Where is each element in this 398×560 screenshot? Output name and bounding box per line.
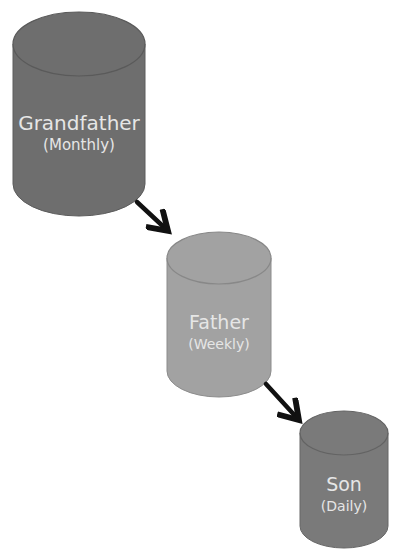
father-frequency: (Weekly) [167, 336, 271, 352]
son-title: Son [300, 474, 388, 496]
grandfather-frequency: (Monthly) [13, 137, 145, 154]
arrow-grandfather-to-father [137, 202, 167, 230]
arrow-father-to-son [266, 384, 298, 419]
son-label: Son (Daily) [300, 474, 388, 514]
grandfather-label: Grandfather (Monthly) [13, 112, 145, 154]
father-label: Father (Weekly) [167, 312, 271, 352]
grandfather-title: Grandfather [13, 112, 145, 135]
son-frequency: (Daily) [300, 498, 388, 514]
father-title: Father [167, 312, 271, 334]
